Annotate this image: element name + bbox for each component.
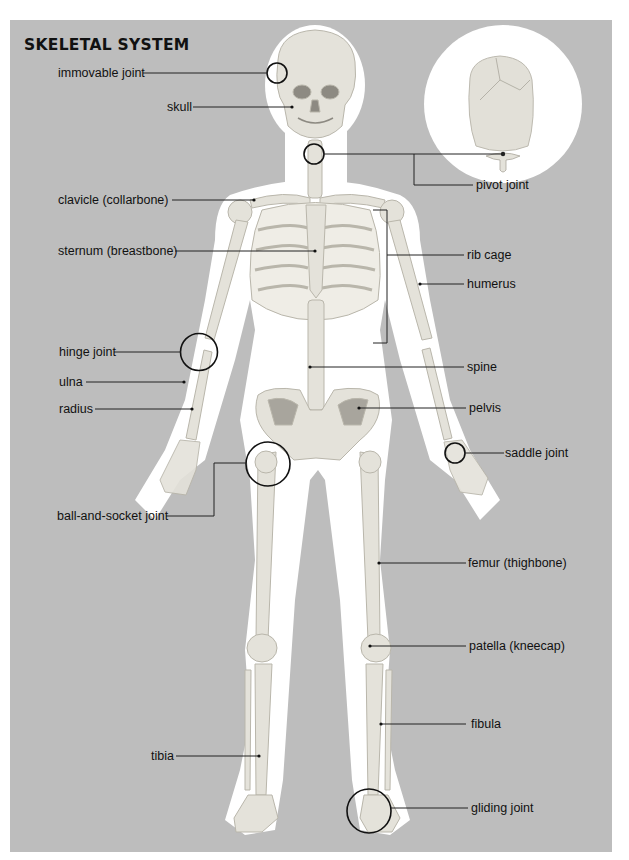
inset-skull-top-view	[424, 25, 582, 183]
skeleton-illustration	[0, 0, 629, 860]
label-saddle-joint: saddle joint	[505, 446, 568, 460]
label-patella: patella (kneecap)	[469, 639, 565, 653]
label-spine: spine	[467, 360, 497, 374]
label-rib-cage: rib cage	[467, 248, 511, 262]
label-skull: skull	[167, 100, 192, 114]
label-tibia: tibia	[151, 749, 174, 763]
label-radius: radius	[59, 402, 93, 416]
label-ball-and-socket-joint: ball-and-socket joint	[57, 509, 168, 523]
diagram-title: SKELETAL SYSTEM	[24, 36, 190, 54]
label-sternum: sternum (breastbone)	[58, 244, 178, 258]
label-fibula: fibula	[471, 717, 501, 731]
label-pivot-joint: pivot joint	[476, 178, 529, 192]
label-femur: femur (thighbone)	[468, 556, 567, 570]
label-clavicle: clavicle (collarbone)	[58, 193, 168, 207]
label-ulna: ulna	[59, 375, 83, 389]
label-immovable-joint: immovable joint	[58, 66, 145, 80]
label-hinge-joint: hinge joint	[59, 345, 116, 359]
label-gliding-joint: gliding joint	[471, 801, 534, 815]
label-humerus: humerus	[467, 277, 516, 291]
label-pelvis: pelvis	[469, 401, 501, 415]
